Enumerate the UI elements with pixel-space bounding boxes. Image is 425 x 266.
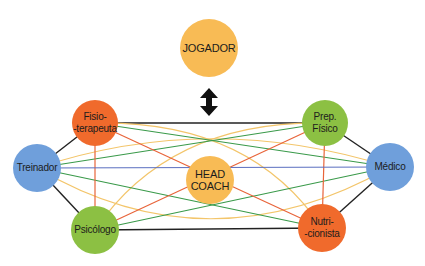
node-prep-fisico: Prep. Físico — [302, 100, 348, 146]
node-medico: Médico — [366, 143, 414, 191]
node-label: HEAD COACH — [191, 168, 230, 192]
node-label: Psicólogo — [74, 224, 116, 236]
node-label: Fisio- -terapeuta — [73, 111, 117, 135]
node-head-coach: HEAD COACH — [186, 156, 234, 204]
node-label: Treinador — [17, 162, 58, 174]
node-nutricionista: Nutri- -cionista — [298, 204, 346, 252]
node-psicologo: Psicólogo — [71, 206, 119, 254]
node-treinador: Treinador — [13, 144, 61, 192]
node-fisioterapeuta: Fisio- -terapeuta — [72, 100, 118, 146]
double-arrow-icon — [199, 88, 219, 116]
node-jogador: JOGADOR — [180, 19, 238, 77]
node-label: Médico — [374, 161, 405, 173]
node-label: JOGADOR — [183, 42, 236, 54]
node-label: Nutri- -cionista — [304, 216, 339, 240]
node-label: Prep. Físico — [312, 111, 337, 135]
